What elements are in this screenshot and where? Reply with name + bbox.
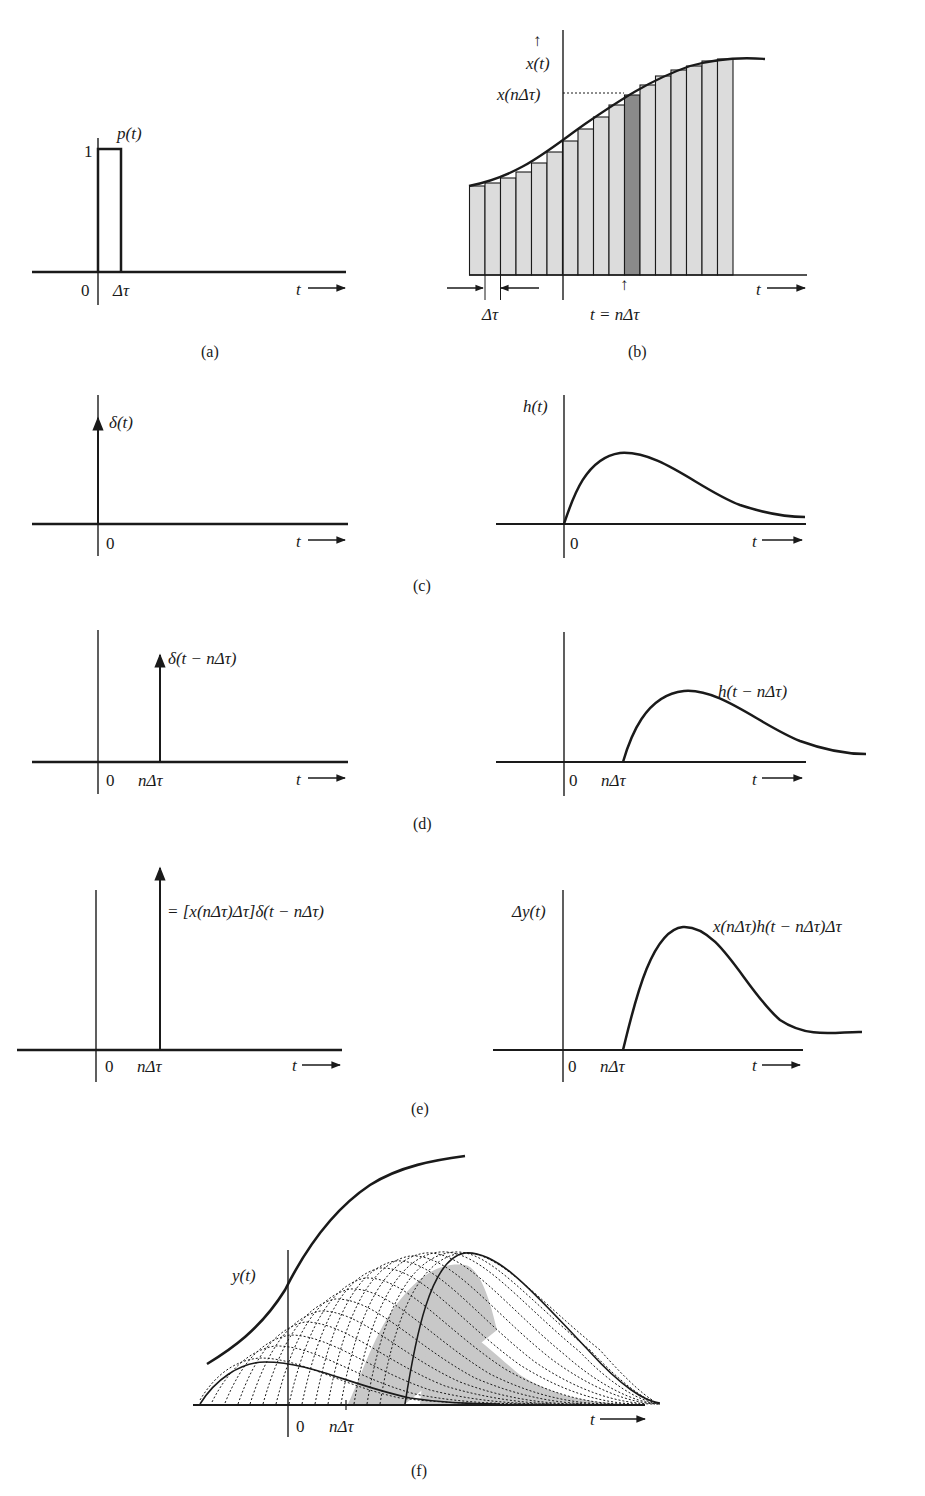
highlighted-strip — [625, 95, 641, 275]
shift-label: nΔτ — [138, 772, 163, 789]
sample-label: x(nΔτ) — [497, 86, 540, 103]
panel-d-right-shifted-response — [496, 632, 866, 796]
time-label: t = nΔτ — [590, 306, 639, 323]
t-label: t — [590, 1411, 595, 1428]
caption-e: (e) — [411, 1101, 429, 1117]
amplitude-label: 1 — [84, 143, 93, 160]
origin-label: 0 — [106, 535, 115, 552]
caption-d: (d) — [413, 816, 432, 832]
h-curve — [564, 453, 805, 524]
panel-c-right-response — [496, 395, 806, 558]
h-shifted-curve — [623, 691, 866, 762]
panel-f-superposition — [193, 1156, 660, 1437]
width-label: Δτ — [113, 282, 129, 299]
shift-label: nΔτ — [137, 1058, 162, 1075]
t-label: t — [752, 533, 757, 550]
shift-label: nΔτ — [329, 1418, 354, 1435]
t-label: t — [296, 771, 301, 788]
pulse-shape — [98, 149, 121, 272]
x-label: x(t) — [526, 55, 550, 72]
origin-label: 0 — [570, 535, 579, 552]
delta-y-curve — [623, 927, 862, 1050]
delta-label: δ(t) — [109, 414, 133, 431]
time-arrow-icon: ↑ — [620, 276, 629, 293]
caption-a: (a) — [201, 344, 219, 360]
delta-y-label: Δy(t) — [512, 903, 546, 920]
origin-label: 0 — [106, 772, 115, 789]
h-label: h(t) — [523, 398, 548, 415]
t-label: t — [296, 281, 301, 298]
t-label: t — [756, 281, 761, 298]
t-label: t — [752, 1057, 757, 1074]
shifted-delta-label: δ(t − nΔτ) — [168, 650, 236, 667]
width-label: Δτ — [482, 306, 498, 323]
convolution-figure — [0, 0, 925, 1496]
panel-b-staircase — [447, 30, 807, 300]
p-label: p(t) — [117, 125, 142, 142]
origin-label: 0 — [569, 772, 578, 789]
t-label: t — [296, 533, 301, 550]
caption-f: (f) — [411, 1463, 427, 1479]
caption-b: (b) — [628, 344, 647, 360]
t-label: t — [752, 771, 757, 788]
shift-label: nΔτ — [601, 772, 626, 789]
origin-label: 0 — [568, 1058, 577, 1075]
weighted-response-label: x(nΔτ)h(t − nΔτ)Δτ — [713, 918, 842, 935]
caption-c: (c) — [413, 578, 431, 594]
y-label: y(t) — [232, 1267, 256, 1284]
shifted-h-label: h(t − nΔτ) — [718, 683, 787, 700]
panel-e-left-weighted-impulse — [17, 868, 342, 1082]
origin-label: 0 — [105, 1058, 114, 1075]
origin-label: 0 — [81, 282, 90, 299]
t-label: t — [292, 1057, 297, 1074]
origin-label: 0 — [296, 1418, 305, 1435]
weighted-impulse-label: = [x(nΔτ)Δτ]δ(t − nΔτ) — [167, 903, 324, 920]
shift-label: nΔτ — [600, 1058, 625, 1075]
y-arrow-icon: ↑ — [533, 32, 542, 49]
